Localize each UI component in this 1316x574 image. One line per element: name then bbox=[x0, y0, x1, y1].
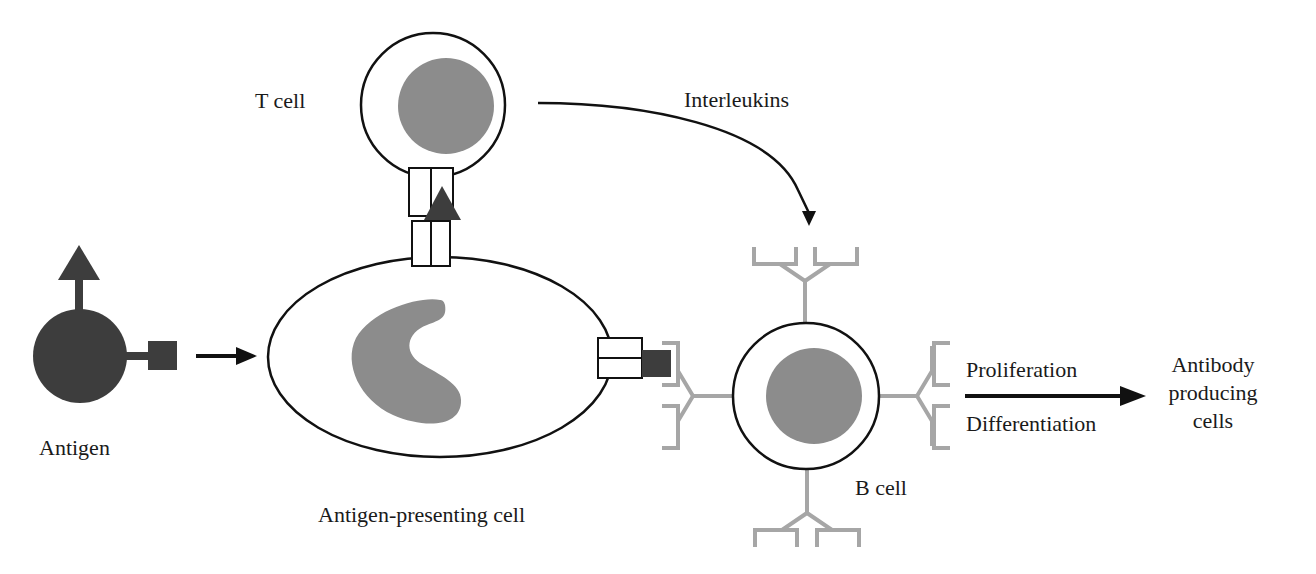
b-cell-nucleus bbox=[766, 348, 862, 444]
interleukins-arrowhead bbox=[802, 211, 816, 226]
interleukins-arrow bbox=[538, 103, 809, 213]
proliferation-arrow bbox=[965, 386, 1146, 406]
antigen-label: Antigen bbox=[39, 435, 110, 460]
apc-mhc-top-right bbox=[431, 221, 450, 266]
antigen-square-epitope bbox=[148, 341, 177, 370]
t-cell-receptor-left bbox=[409, 168, 431, 216]
t-cell-nucleus bbox=[398, 58, 494, 154]
immune-response-diagram: Antigen Antigen-presenting cell T cell I… bbox=[0, 0, 1316, 574]
apc-mhc-right-bottom bbox=[598, 358, 642, 378]
antigen-to-apc-arrow bbox=[196, 347, 257, 365]
t-cell bbox=[361, 33, 505, 220]
b-cell bbox=[662, 247, 950, 547]
b-cell-label: B cell bbox=[855, 475, 907, 500]
antibody-left bbox=[662, 343, 733, 448]
antibody-top bbox=[754, 247, 857, 323]
antigen-triangle-epitope bbox=[58, 245, 100, 280]
interleukins-label: Interleukins bbox=[684, 87, 789, 112]
output-label-line3: cells bbox=[1193, 408, 1233, 433]
t-cell-label: T cell bbox=[255, 88, 305, 113]
differentiation-label: Differentiation bbox=[966, 411, 1096, 436]
proliferation-label: Proliferation bbox=[966, 357, 1077, 382]
apc-mhc-right-top bbox=[598, 338, 642, 358]
antibody-right bbox=[880, 343, 950, 448]
apc-membrane bbox=[268, 257, 612, 457]
output-label-line2: producing bbox=[1168, 380, 1257, 405]
presented-antigen-square bbox=[642, 350, 671, 377]
antigen-body bbox=[33, 309, 127, 403]
apc-mhc-top-left bbox=[412, 221, 431, 266]
output-label-line1: Antibody bbox=[1171, 352, 1254, 377]
antigen-presenting-cell bbox=[268, 221, 671, 457]
antigen bbox=[33, 245, 177, 403]
apc-label: Antigen-presenting cell bbox=[318, 502, 525, 527]
antibody-bottom bbox=[755, 470, 859, 547]
